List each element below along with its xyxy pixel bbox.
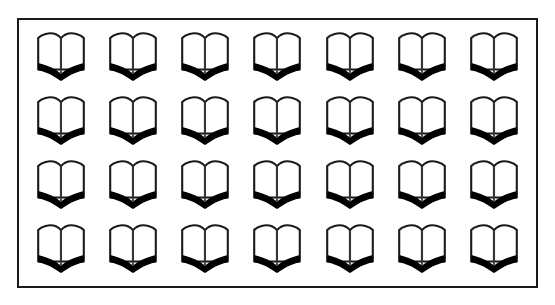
open-book-icon[interactable]: [466, 95, 522, 145]
open-book-icon[interactable]: [177, 95, 233, 145]
grid-cell-r2-c6[interactable]: [386, 88, 458, 152]
grid-cell-r4-c7[interactable]: [458, 216, 530, 280]
grid-cell-r3-c1[interactable]: [25, 152, 97, 216]
grid-cell-r4-c1[interactable]: [25, 216, 97, 280]
grid-cell-r1-c4[interactable]: [241, 24, 313, 88]
grid-cell-r1-c1[interactable]: [25, 24, 97, 88]
grid-cell-r4-c2[interactable]: [97, 216, 169, 280]
open-book-icon[interactable]: [466, 223, 522, 273]
open-book-icon[interactable]: [249, 95, 305, 145]
open-book-icon[interactable]: [394, 159, 450, 209]
open-book-icon[interactable]: [33, 223, 89, 273]
open-book-icon[interactable]: [249, 31, 305, 81]
open-book-icon[interactable]: [33, 159, 89, 209]
open-book-icon[interactable]: [322, 159, 378, 209]
grid-cell-r1-c2[interactable]: [97, 24, 169, 88]
open-book-icon[interactable]: [466, 159, 522, 209]
open-book-icon[interactable]: [322, 223, 378, 273]
grid-cell-r1-c5[interactable]: [314, 24, 386, 88]
grid-cell-r4-c3[interactable]: [169, 216, 241, 280]
grid-cell-r3-c4[interactable]: [241, 152, 313, 216]
open-book-icon[interactable]: [466, 31, 522, 81]
open-book-icon[interactable]: [105, 31, 161, 81]
grid-cell-r3-c2[interactable]: [97, 152, 169, 216]
open-book-icon[interactable]: [105, 159, 161, 209]
grid-cell-r4-c5[interactable]: [314, 216, 386, 280]
open-book-icon[interactable]: [322, 31, 378, 81]
open-book-icon[interactable]: [105, 223, 161, 273]
open-book-icon[interactable]: [249, 223, 305, 273]
icon-grid-frame: [17, 18, 538, 288]
open-book-icon[interactable]: [394, 31, 450, 81]
grid-cell-r3-c5[interactable]: [314, 152, 386, 216]
grid-cell-r2-c7[interactable]: [458, 88, 530, 152]
icon-grid: [19, 20, 536, 286]
open-book-icon[interactable]: [33, 31, 89, 81]
grid-cell-r4-c4[interactable]: [241, 216, 313, 280]
open-book-icon[interactable]: [394, 223, 450, 273]
open-book-icon[interactable]: [33, 95, 89, 145]
grid-cell-r1-c6[interactable]: [386, 24, 458, 88]
grid-cell-r3-c3[interactable]: [169, 152, 241, 216]
grid-cell-r2-c2[interactable]: [97, 88, 169, 152]
open-book-icon[interactable]: [322, 95, 378, 145]
grid-cell-r4-c6[interactable]: [386, 216, 458, 280]
open-book-icon[interactable]: [177, 159, 233, 209]
grid-cell-r3-c7[interactable]: [458, 152, 530, 216]
page-root: [0, 0, 555, 305]
grid-cell-r2-c4[interactable]: [241, 88, 313, 152]
grid-cell-r3-c6[interactable]: [386, 152, 458, 216]
grid-cell-r1-c7[interactable]: [458, 24, 530, 88]
grid-cell-r2-c1[interactable]: [25, 88, 97, 152]
open-book-icon[interactable]: [249, 159, 305, 209]
grid-cell-r2-c3[interactable]: [169, 88, 241, 152]
grid-cell-r2-c5[interactable]: [314, 88, 386, 152]
grid-cell-r1-c3[interactable]: [169, 24, 241, 88]
open-book-icon[interactable]: [177, 223, 233, 273]
open-book-icon[interactable]: [105, 95, 161, 145]
open-book-icon[interactable]: [177, 31, 233, 81]
open-book-icon[interactable]: [394, 95, 450, 145]
